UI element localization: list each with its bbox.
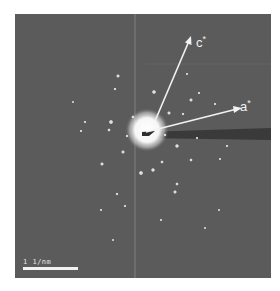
c-star-superscript: * [203, 34, 207, 44]
c-star-vector-arrow [155, 36, 192, 121]
diffraction-pattern-graphic [15, 14, 271, 278]
c-star-label: c* [196, 34, 206, 50]
diffraction-pattern: c* a* 1 1/nm [15, 14, 271, 278]
central-beam [125, 108, 169, 152]
scale-bar [23, 267, 78, 270]
scale-bar-label: 1 1/nm [23, 258, 51, 266]
a-star-label: a* [240, 98, 251, 114]
diffraction-spots [72, 73, 229, 242]
a-star-superscript: * [247, 98, 251, 108]
